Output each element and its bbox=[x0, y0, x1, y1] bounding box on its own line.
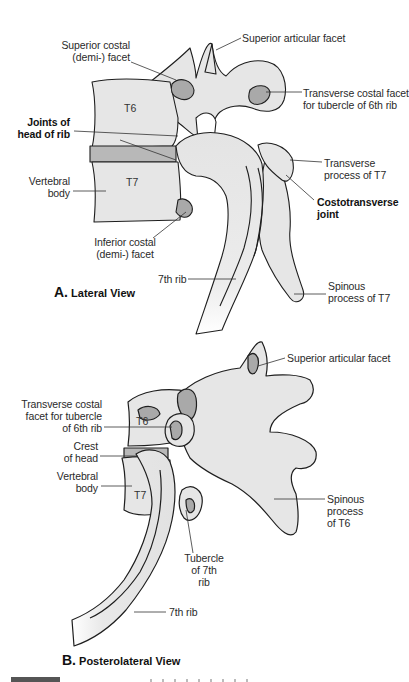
label-line: Costotransverse bbox=[317, 196, 398, 208]
label-superior-articular-facet-b: Superior articular facet bbox=[287, 352, 390, 364]
caption-panel-b: B. Posterolateral View bbox=[62, 652, 180, 668]
label-line: Transverse costal facet bbox=[303, 87, 409, 99]
vertebra-tag-t7: T7 bbox=[126, 176, 138, 188]
caption-panel-a: A. Lateral View bbox=[54, 284, 135, 300]
label-line: of 6th rib bbox=[10, 422, 102, 434]
label-line: of T6 bbox=[327, 517, 364, 529]
label-line: Superior costal bbox=[60, 39, 130, 51]
label-line: Vertebral bbox=[10, 175, 70, 187]
caption-letter: B. bbox=[62, 652, 76, 668]
label-seventh-rib-a: 7th rib bbox=[158, 273, 186, 285]
label-crest-of-head: Crest of head bbox=[30, 440, 98, 464]
label-line: of 7th bbox=[176, 564, 232, 576]
label-spinous-process-t7: Spinous process of T7 bbox=[328, 280, 390, 304]
vertebra-tag-t7-b: T7 bbox=[134, 489, 146, 501]
label-spinous-process-t6: Spinous process of T6 bbox=[327, 493, 364, 529]
label-vertebral-body-a: Vertebral body bbox=[10, 175, 70, 199]
label-line: Spinous bbox=[327, 493, 364, 505]
panel-b-art bbox=[72, 342, 325, 646]
label-line: Tubercle bbox=[176, 552, 232, 564]
label-seventh-rib-b: 7th rib bbox=[169, 606, 197, 618]
label-line: head of rib bbox=[10, 128, 70, 140]
label-line: body bbox=[30, 482, 98, 494]
label-line: Crest bbox=[30, 440, 98, 452]
label-transverse-costal-facet-b: Transverse costal facet for tubercle of … bbox=[10, 398, 102, 434]
label-line: Spinous bbox=[328, 280, 390, 292]
label-line: rib bbox=[176, 576, 232, 588]
label-line: Transverse bbox=[324, 157, 386, 169]
label-line: joint bbox=[317, 208, 398, 220]
label-line: of head bbox=[30, 452, 98, 464]
label-transverse-process-t7: Transverse process of T7 bbox=[324, 157, 386, 181]
caption-text: Lateral View bbox=[71, 287, 135, 299]
label-superior-costal-facet: Superior costal (demi-) facet bbox=[60, 39, 130, 63]
label-line: (demi-) facet bbox=[90, 248, 160, 260]
label-line: facet for tubercle bbox=[10, 410, 102, 422]
label-line: process of T7 bbox=[324, 169, 386, 181]
label-costotransverse-joint: Costotransverse joint bbox=[317, 196, 398, 220]
caption-letter: A. bbox=[54, 284, 68, 300]
label-line: process bbox=[327, 505, 364, 517]
label-line: process of T7 bbox=[328, 292, 390, 304]
label-inferior-costal-facet: Inferior costal (demi-) facet bbox=[90, 236, 160, 260]
caption-text: Posterolateral View bbox=[79, 655, 180, 667]
label-transverse-costal-facet-a: Transverse costal facet for tubercle of … bbox=[303, 87, 409, 111]
vertebra-tag-t6-b: T6 bbox=[136, 415, 148, 427]
label-line: Joints of bbox=[10, 116, 70, 128]
label-line: (demi-) facet bbox=[60, 51, 130, 63]
label-vertebral-body-b: Vertebral body bbox=[30, 470, 98, 494]
label-line: Transverse costal bbox=[10, 398, 102, 410]
vertebra-tag-t6: T6 bbox=[124, 102, 136, 114]
label-joints-head-of-rib: Joints of head of rib bbox=[10, 116, 70, 140]
label-line: body bbox=[10, 187, 70, 199]
label-line: for tubercle of 6th rib bbox=[303, 99, 409, 111]
footer-bar bbox=[11, 677, 60, 682]
label-line: Vertebral bbox=[30, 470, 98, 482]
label-line: Inferior costal bbox=[90, 236, 160, 248]
label-superior-articular-facet-a: Superior articular facet bbox=[242, 32, 345, 44]
label-tubercle-7th-rib: Tubercle of 7th rib bbox=[176, 552, 232, 588]
